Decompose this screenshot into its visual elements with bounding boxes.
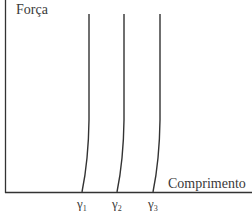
curve-label-1: γ1 (76, 196, 87, 213)
curve-label-3: γ3 (147, 196, 158, 213)
y-axis-label: Força (16, 2, 49, 17)
curve-gamma-1 (82, 14, 89, 192)
x-axis-label: Comprimento (168, 176, 246, 191)
force-length-diagram: Força Comprimento γ1 γ2 γ3 (0, 0, 252, 215)
curve-gamma-3 (153, 14, 160, 192)
curve-gamma-2 (117, 14, 124, 192)
curve-label-2: γ2 (111, 196, 122, 213)
